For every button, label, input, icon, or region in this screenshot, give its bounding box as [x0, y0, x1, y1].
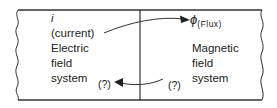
- right-break-line: [261, 10, 263, 100]
- left-unknown-label: (?): [98, 78, 111, 91]
- flux-note: (Flux): [197, 19, 222, 29]
- left-system-line-2: field: [51, 57, 72, 70]
- left-system-line-3: system: [51, 72, 87, 85]
- right-system-line-1: Magnetic: [192, 42, 239, 55]
- current-to-flux-arrow: [104, 18, 183, 33]
- electromechanical-coupling-diagram: i (current) Electric field system (?) ϕ(…: [0, 0, 277, 108]
- current-note: (current): [51, 27, 94, 40]
- right-unknown-label: (?): [168, 79, 181, 92]
- flux-label: ϕ(Flux): [190, 13, 222, 28]
- left-break-line: [16, 10, 19, 100]
- arrowhead-right-icon: [180, 16, 190, 24]
- right-system-line-2: field: [192, 57, 213, 70]
- arrowhead-left-icon: [114, 78, 123, 87]
- current-symbol: i: [51, 12, 54, 25]
- left-system-line-1: Electric: [51, 42, 89, 55]
- right-system-line-3: system: [192, 72, 228, 85]
- return-arrow: [121, 79, 163, 85]
